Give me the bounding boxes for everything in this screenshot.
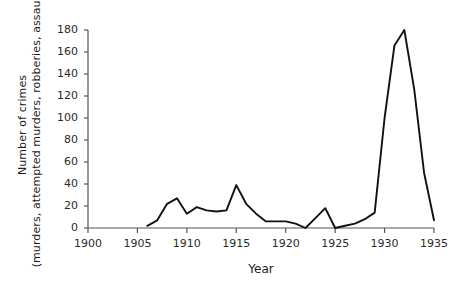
x-axis: [88, 228, 434, 233]
x-tick-label: 1915: [219, 237, 253, 250]
x-tick-label: 1905: [120, 237, 154, 250]
y-tick-label: 80: [52, 133, 78, 146]
y-axis-label-line1: Number of crimes: [16, 0, 30, 267]
x-tick-label: 1925: [318, 237, 352, 250]
x-tick-label: 1930: [368, 237, 402, 250]
x-tick-label: 1910: [170, 237, 204, 250]
y-tick-label: 40: [52, 177, 78, 190]
y-tick-label: 160: [52, 45, 78, 58]
y-axis: [84, 30, 88, 228]
x-tick-label: 1900: [71, 237, 105, 250]
x-tick-label: 1935: [417, 237, 451, 250]
y-axis-label-line2: (murders, attempted murders, robberies, …: [30, 0, 44, 267]
crime-line-chart: Number of crimes (murders, attempted mur…: [0, 0, 452, 292]
y-tick-label: 140: [52, 67, 78, 80]
x-tick-marks: [88, 228, 434, 233]
y-axis-label: Number of crimes (murders, attempted mur…: [0, 0, 60, 250]
y-tick-label: 120: [52, 89, 78, 102]
y-tick-label: 100: [52, 111, 78, 124]
x-axis-label: Year: [88, 262, 434, 276]
y-tick-label: 60: [52, 155, 78, 168]
data-series-line: [147, 30, 434, 228]
y-tick-label: 20: [52, 199, 78, 212]
y-tick-label: 180: [52, 23, 78, 36]
x-tick-label: 1920: [269, 237, 303, 250]
y-tick-label: 0: [52, 221, 78, 234]
